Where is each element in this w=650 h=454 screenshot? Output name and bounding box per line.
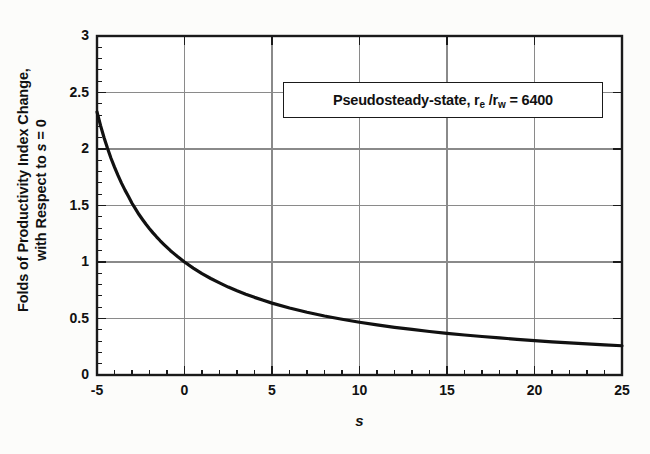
annotation-text-post: = 6400: [506, 92, 553, 108]
y-tick-label: 0.5: [41, 310, 89, 326]
y-tick-label: 2: [41, 140, 89, 156]
x-tick-label: 25: [597, 382, 647, 398]
annotation-text-mid: /r: [485, 92, 498, 108]
annotation-subscript-e: e: [480, 99, 485, 110]
x-tick-label: 15: [422, 382, 472, 398]
x-tick-label: 20: [510, 382, 560, 398]
y-tick-label: 2.5: [41, 84, 89, 100]
x-tick-label: 0: [160, 382, 210, 398]
annotation-text-pre: Pseudosteady-state, r: [333, 92, 480, 108]
annotation-text: Pseudosteady-state, re /rw = 6400: [333, 92, 553, 108]
y-tick-label: 1: [41, 253, 89, 269]
figure-container: Folds of Productivity Index Change, with…: [0, 0, 650, 454]
y-tick-label: 1.5: [41, 197, 89, 213]
x-axis-title: s: [97, 412, 622, 429]
y-tick-label: 3: [41, 27, 89, 43]
annotation-box: Pseudosteady-state, re /rw = 6400: [283, 82, 603, 118]
y-tick-label: 0: [41, 366, 89, 382]
x-tick-label: -5: [72, 382, 122, 398]
x-tick-label: 10: [335, 382, 385, 398]
annotation-subscript-w: w: [498, 99, 506, 110]
x-tick-label: 5: [247, 382, 297, 398]
